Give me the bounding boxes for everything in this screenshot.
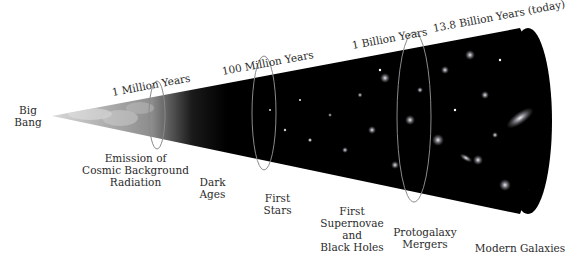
universe-timeline-diagram: Big Bang 1 Million Years 100 Million Yea… bbox=[0, 0, 574, 264]
epoch-protogalaxy-mergers: Protogalaxy Mergers bbox=[385, 226, 465, 250]
cosmic-cone-graphic bbox=[0, 0, 574, 264]
epoch-cmb-emission: Emission of Cosmic Background Radiation bbox=[78, 152, 193, 188]
big-bang-label: Big Bang bbox=[14, 104, 42, 128]
epoch-dark-ages: Dark Ages bbox=[195, 176, 230, 200]
epoch-first-supernovae: First Supernovae and Black Holes bbox=[312, 205, 392, 253]
epoch-modern-galaxies: Modern Galaxies bbox=[470, 242, 570, 254]
epoch-first-stars: First Stars bbox=[260, 192, 295, 216]
